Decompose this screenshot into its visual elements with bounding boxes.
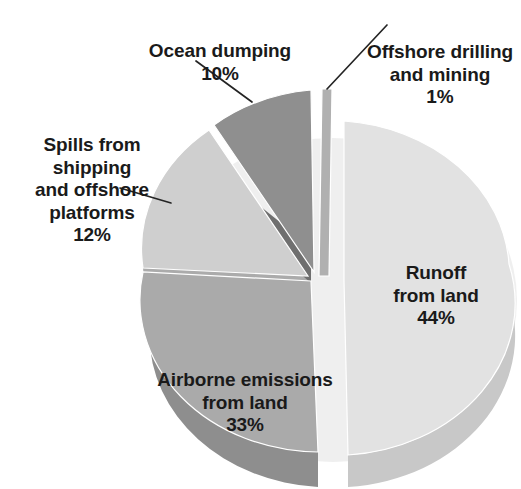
slice-label-offshore-drilling: Offshore drilling and mining 1% — [360, 19, 520, 131]
pie-chart-figure: Ocean dumping 10% Offshore drilling and … — [0, 0, 521, 489]
slice-label-airborne-percent: 33% — [150, 414, 340, 436]
slice-label-runoff-text: Runoff from land — [393, 262, 479, 305]
slice-label-offshore-drilling-percent: 1% — [360, 86, 520, 108]
slice-label-airborne-text: Airborne emissions from land — [157, 369, 333, 412]
slice-label-airborne: Airborne emissions from land 33% — [150, 347, 340, 459]
slice-offshore-drilling[interactable] — [319, 89, 332, 276]
slice-label-offshore-drilling-text: Offshore drilling and mining — [367, 41, 513, 84]
slice-label-spills-text: Spills from shipping and offshore platfo… — [35, 134, 149, 222]
slice-label-runoff-percent: 44% — [372, 307, 500, 329]
slice-label-ocean-dumping-text: Ocean dumping — [149, 40, 291, 61]
slice-label-ocean-dumping: Ocean dumping 10% — [120, 18, 320, 108]
slice-label-spills: Spills from shipping and offshore platfo… — [2, 112, 182, 269]
slice-label-ocean-dumping-percent: 10% — [120, 63, 320, 85]
slice-label-runoff: Runoff from land 44% — [372, 240, 500, 352]
slice-label-spills-percent: 12% — [2, 224, 182, 246]
